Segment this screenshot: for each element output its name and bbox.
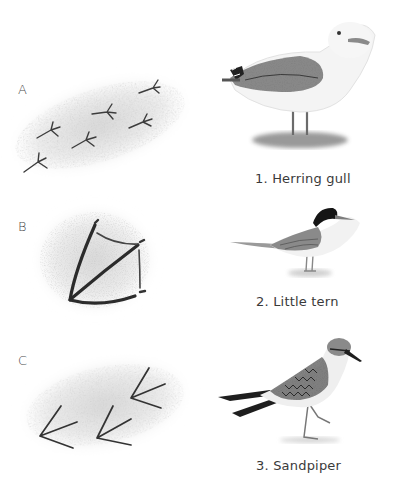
sandpiper-illustration [200, 325, 398, 455]
bird-label-little-tern: 2. Little tern [256, 294, 339, 309]
track-b-illustration [0, 200, 200, 340]
bird-label-sandpiper: 3. Sandpiper [256, 458, 341, 473]
track-c-illustration [0, 335, 200, 480]
little-tern-illustration [200, 195, 398, 295]
bird-label-herring-gull: 1. Herring gull [255, 171, 351, 186]
track-a-illustration [0, 60, 200, 200]
herring-gull-illustration [200, 0, 398, 160]
